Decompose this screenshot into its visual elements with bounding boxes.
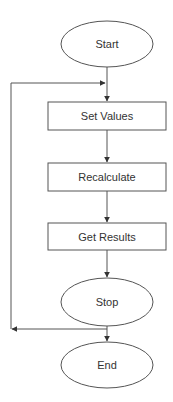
start-node	[61, 21, 153, 67]
set-values-node	[48, 102, 166, 130]
end-node	[61, 342, 153, 388]
stop-node	[61, 278, 153, 326]
recalculate-node	[48, 163, 166, 191]
flowchart	[0, 0, 173, 402]
get-results-node	[48, 223, 166, 250]
